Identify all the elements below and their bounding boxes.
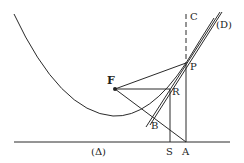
label-delta: (Δ) bbox=[91, 146, 106, 157]
parabola-curve bbox=[14, 14, 214, 116]
tangent-line-d bbox=[146, 12, 220, 127]
label-d: (D) bbox=[216, 19, 232, 30]
parabola-diagram: C (D) P F R B S A (Δ) bbox=[0, 0, 244, 163]
label-r: R bbox=[172, 86, 180, 97]
focus-point bbox=[113, 87, 117, 91]
label-c: C bbox=[190, 11, 198, 22]
label-p: P bbox=[190, 61, 197, 72]
label-f: F bbox=[107, 74, 115, 87]
label-a: A bbox=[181, 146, 190, 157]
label-b: B bbox=[151, 120, 158, 131]
label-s: S bbox=[166, 146, 173, 157]
